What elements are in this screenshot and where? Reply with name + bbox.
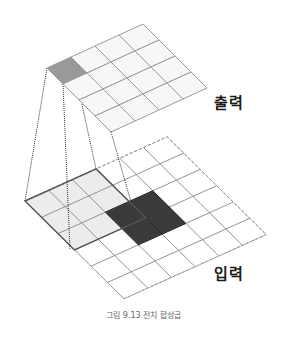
projection-line bbox=[25, 68, 47, 201]
transposed-convolution-diagram bbox=[0, 0, 287, 338]
output-label: 출력 bbox=[214, 91, 244, 112]
output-grid bbox=[47, 24, 207, 132]
input-label: 입력 bbox=[214, 262, 244, 283]
figure-caption: 그림 9.13 전치 합성곱 bbox=[0, 309, 287, 320]
